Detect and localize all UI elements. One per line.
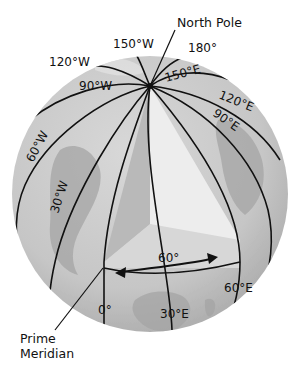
meridian-label-90w: 90°W [79,79,112,93]
prime-meridian-label-line2: Meridian [20,346,74,361]
prime-meridian-label-line1: Prime [20,331,56,346]
globe-diagram: North Pole 180° 150°W 120°W 90°W 60°W 30… [0,0,304,365]
meridian-label-120w: 120°W [49,55,90,69]
meridian-label-180: 180° [188,41,217,55]
meridian-label-60e: 60°E [224,281,253,295]
north-pole-label: North Pole [177,15,242,30]
meridian-label-30e: 30°E [160,307,189,321]
meridian-label-150w: 150°W [113,37,154,51]
angle-label: 60° [158,251,179,265]
meridian-label-0: 0° [98,303,112,317]
